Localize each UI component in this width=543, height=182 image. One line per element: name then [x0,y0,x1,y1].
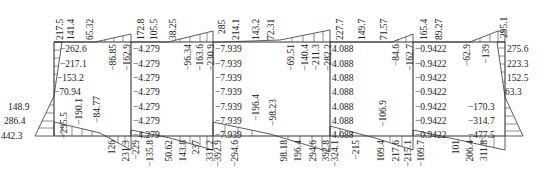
column-moment-label: −7.939 [215,116,242,126]
bottom-beam-lower-label: 98.18 [279,140,289,162]
top-beam-label: 285 [217,20,227,35]
bending-moment-diagram: 217.5141.465.32172.8105.538.25285214.114… [0,0,543,182]
column-moment-label: −0.9422 [415,44,447,54]
column-moment-label: −7.939 [215,102,242,112]
column-moment-label: −0.9422 [415,102,447,112]
top-beam-label: 65.32 [85,18,95,40]
bottom-beam-upper-label: −98.23 [268,99,278,126]
column-moment-label: 4.088 [332,44,354,54]
top-beam-negative-label: −211.3 [311,44,321,71]
top-beam-negative-label: −162.7 [405,44,415,71]
top-beam-negative-label: −96.34 [183,44,193,71]
top-beam-label: 38.25 [168,18,178,40]
bottom-beam-upper-label: −295.5 [59,112,69,139]
column-moment-label: 4.088 [332,73,354,83]
column-moment-label: −262.6 [60,44,87,54]
column-moment-label: 275.6 [507,44,529,54]
top-beam-label: 227.7 [335,18,345,40]
column-moment-label: 63.3 [505,87,522,97]
top-beam-negative-label: −86.85 [108,44,118,71]
column-moment-label: −0.9422 [415,130,447,140]
bottom-beam-lower-label: −294.6 [230,140,240,167]
column-moment-label: −0.9422 [415,87,447,97]
column-moment-label: −4.279 [133,44,160,54]
column-moment-label: 223.3 [507,59,529,69]
column-moment-label: −170.3 [468,102,495,112]
top-beam-label: 214.1 [231,18,241,40]
column-moment-label: 4.088 [332,87,354,97]
column-moment-label: 4.088 [332,116,354,126]
column-moment-label: −70.94 [54,87,81,97]
bottom-beam-lower-label: −392.9 [213,140,223,167]
bottom-beam-lower-label: 294.6 [308,140,318,162]
top-beam-label: 149.7 [357,18,367,40]
bottom-beam-upper-label: −106.9 [378,100,388,127]
column-moment-label: −7.939 [215,44,242,54]
column-moment-label: −314.7 [468,116,495,126]
bottom-beam-lower-label: 217.6 [391,140,401,162]
column-moment-label: −0.9422 [415,73,447,83]
bottom-beam-lower-label: −229 [131,140,141,160]
column-moment-label: 442.3 [1,131,23,141]
bottom-beam-lower-label: 109.4 [376,140,386,162]
top-beam-negative-label: −162.9 [122,44,132,71]
top-beam-label: 105.5 [149,18,159,40]
column-moment-label: −4.279 [133,130,160,140]
column-moment-label: 4.088 [332,59,354,69]
bottom-beam-lower-label: 237 [191,140,201,155]
top-beam-label: 72.31 [266,18,276,40]
moment-value-labels: 217.5141.465.32172.8105.538.25285214.114… [1,16,529,166]
column-moment-label: −7.939 [215,130,242,140]
bottom-beam-lower-label: −135.8 [145,140,155,167]
top-beam-negative-label: −140.4 [300,44,310,71]
bottom-beam-lower-label: 196.4 [293,140,303,162]
bottom-beam-lower-label: 206.4 [465,140,475,162]
column-moment-label: 148.9 [8,102,30,112]
column-moment-label: −7.939 [215,87,242,97]
bottom-beam-lower-label: 143.8 [178,140,188,162]
bottom-beam-lower-label: 231.3 [121,140,131,162]
bottom-beam-lower-label: −215 [351,140,361,160]
column-moment-label: −4.279 [133,87,160,97]
bottom-beam-upper-label: −196.4 [251,94,261,121]
top-beam-label: 217.5 [55,18,65,40]
top-beam-negative-label: −62.9 [462,44,472,66]
column-moment-label: −217.1 [60,59,87,69]
column-moment-label: −7.939 [215,73,242,83]
bottom-beam-upper-label: −190.1 [74,98,84,125]
bottom-beam-lower-label: −324.1 [330,140,340,167]
top-beam-negative-label: −69.51 [286,44,296,71]
top-beam-label: 165.4 [419,18,429,40]
column-moment-label: −4.279 [133,102,160,112]
top-beam-label: 172.8 [136,18,146,40]
top-beam-label: 71.57 [379,18,389,40]
bottom-beam-lower-label: 311.8 [479,140,489,161]
bottom-beam-upper-label: −84.77 [92,96,102,123]
bottom-beam-lower-label: 101 [451,140,461,155]
top-beam-negative-label: −84.6 [391,44,401,66]
column-moment-label: 152.5 [507,73,529,83]
top-beam-negative-label: −163.6 [195,44,205,71]
column-moment-label: −4.279 [133,73,160,83]
column-moment-label: −153.2 [57,73,84,83]
top-beam-negative-label: −139 [481,44,491,64]
column-moment-label: −477.5 [468,130,495,140]
bottom-beam-lower-label: −215.1 [403,140,413,167]
column-moment-label: −4.279 [133,116,160,126]
bottom-beam-lower-label: 50.62 [164,140,174,162]
top-beam-label: 295.1 [499,16,509,38]
top-beam-label: 89.27 [434,18,444,40]
column-moment-label: 4.088 [332,130,354,140]
column-moment-label: −7.939 [215,59,242,69]
top-beam-label: 143.2 [251,18,261,40]
column-moment-label: −0.9422 [415,116,447,126]
bottom-beam-lower-label: −109.7 [416,140,426,167]
bottom-beam-lower-label: 126 [107,140,117,155]
column-moment-label: 286.4 [4,116,26,126]
column-moment-label: −0.9422 [415,59,447,69]
column-moment-label: 4.088 [332,102,354,112]
column-moment-label: −4.279 [133,59,160,69]
top-beam-label: 141.4 [66,18,76,40]
